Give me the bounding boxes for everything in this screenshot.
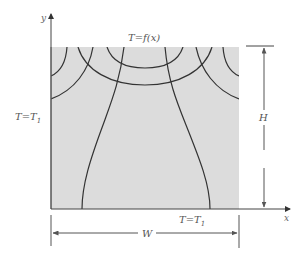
left-boundary-label: T=T1: [15, 111, 41, 125]
domain-region: [51, 47, 239, 209]
height-label: H: [258, 112, 268, 123]
height-dimension: H: [246, 46, 283, 207]
x-axis-label: x: [284, 213, 289, 223]
top-boundary-label: T=f(x): [128, 32, 160, 43]
width-label: W: [142, 228, 153, 239]
bottom-boundary-label: T=T1: [179, 214, 205, 228]
y-axis-label: y: [40, 13, 47, 23]
width-dimension: W: [51, 215, 239, 248]
heat-conduction-diagram: y x T=f(x) T=T1 T=T1 T=T1 H W: [0, 0, 305, 261]
